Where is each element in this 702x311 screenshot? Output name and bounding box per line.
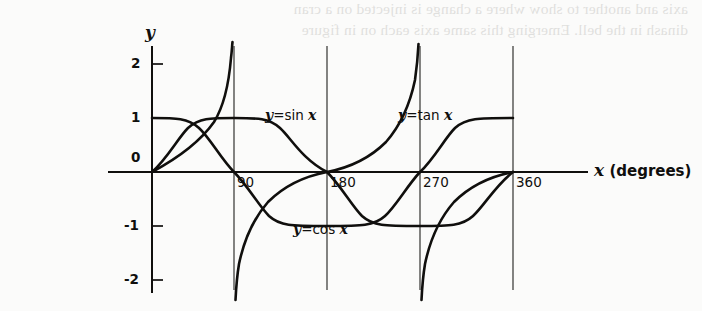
- x-axis-label-unit: (degrees): [609, 162, 691, 180]
- x-axis-label: x (degrees): [594, 162, 691, 179]
- gridlines-vertical: [234, 46, 513, 290]
- curve-label-cos-eq: =cos: [301, 221, 339, 237]
- x-axis-label-symbol: x: [594, 160, 604, 180]
- y-axis-label: y: [145, 24, 155, 41]
- xtick-label-360: 360: [516, 176, 542, 190]
- curve-tan-branch-1: [152, 42, 233, 172]
- xtick-label-90: 90: [237, 176, 254, 190]
- curve-label-cos-x: x: [339, 221, 347, 237]
- curve-label-sin: y=sin x: [265, 108, 316, 123]
- xtick-label-270: 270: [423, 176, 449, 190]
- figure-trig-graphs: axis and another to show where a change …: [0, 0, 702, 311]
- ytick-label-neg2: -2: [124, 273, 139, 287]
- curve-tan-branch-3: [422, 172, 514, 300]
- curve-label-sin-y: y: [265, 107, 273, 123]
- curve-label-tan-y: y: [398, 107, 406, 123]
- ytick-label-neg1: -1: [124, 219, 139, 233]
- ytick-label-1: 1: [131, 111, 140, 125]
- curve-label-cos-y: y: [293, 221, 301, 237]
- ytick-label-0: 0: [131, 151, 140, 165]
- curve-label-sin-eq: =sin: [273, 107, 308, 123]
- curve-label-cos: y=cos x: [293, 222, 348, 237]
- curve-label-tan: y=tan x: [398, 108, 452, 123]
- trig-plot-canvas: [0, 0, 702, 311]
- xtick-label-180: 180: [330, 176, 356, 190]
- curve-label-tan-eq: =tan: [406, 107, 444, 123]
- ytick-label-2: 2: [131, 57, 140, 71]
- curve-label-sin-x: x: [308, 107, 316, 123]
- curve-label-tan-x: x: [444, 107, 452, 123]
